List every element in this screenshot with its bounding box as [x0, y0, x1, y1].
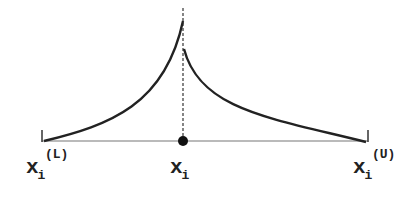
- lower-bound-label: xi(L): [26, 156, 46, 179]
- right-density-curve: [184, 49, 366, 142]
- left-density-curve: [44, 21, 183, 141]
- center-point: [178, 136, 188, 146]
- center-label: xi: [170, 156, 190, 179]
- upper-bound-label: xi(U): [353, 156, 373, 179]
